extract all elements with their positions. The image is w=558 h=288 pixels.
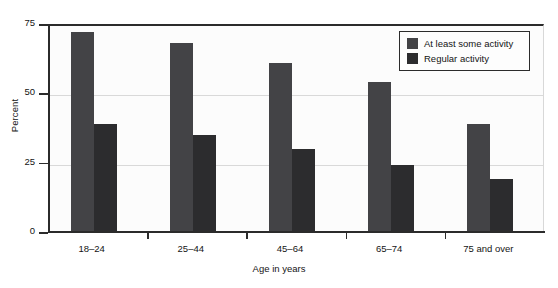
legend-item[interactable]: Regular activity [407, 53, 522, 64]
x-axis-tick [445, 233, 447, 239]
bar [467, 124, 490, 232]
x-axis-title: Age in years [0, 263, 558, 274]
bar [292, 149, 315, 232]
x-axis-category-label: 75 and over [463, 243, 513, 254]
y-axis-tick: 50 [0, 93, 48, 94]
chart-legend: At least some activity Regular activity [399, 31, 530, 71]
x-axis-category-label: 45–64 [277, 243, 303, 254]
y-tick-label: 0 [30, 225, 35, 236]
legend-item[interactable]: At least some activity [407, 38, 522, 49]
x-axis-category-label: 18–24 [78, 243, 104, 254]
bar [94, 124, 117, 232]
gridline [50, 95, 543, 96]
legend-item-label: At least some activity [424, 38, 513, 49]
bar [391, 165, 414, 232]
legend-item-label: Regular activity [424, 53, 489, 64]
x-axis-category-label: 25–44 [178, 243, 204, 254]
x-axis-category-label: 65–74 [376, 243, 402, 254]
x-axis-tick [346, 233, 348, 239]
y-axis-tick: 25 [0, 163, 48, 164]
y-tick-mark [39, 93, 48, 95]
y-tick-mark [39, 232, 48, 234]
bar [170, 43, 193, 232]
y-axis-tick: 0 [0, 232, 48, 233]
bar [71, 32, 94, 232]
y-tick-label: 25 [24, 156, 35, 167]
bar [490, 179, 513, 232]
legend-swatch-icon [407, 38, 418, 49]
x-axis-line [48, 231, 545, 233]
chart-figure: Percent 0255075 18–2425–4445–6465–7475 a… [0, 0, 558, 288]
legend-swatch-icon [407, 53, 418, 64]
x-axis-tick [246, 233, 248, 239]
x-axis-tick [147, 233, 149, 239]
y-tick-label: 75 [24, 17, 35, 28]
bar [193, 135, 216, 232]
bar [368, 82, 391, 232]
bar [269, 63, 292, 232]
y-axis-tick: 75 [0, 24, 48, 25]
y-tick-label: 50 [24, 86, 35, 97]
y-axis-title: Percent [9, 86, 20, 146]
y-tick-mark [39, 163, 48, 165]
y-tick-mark [39, 24, 48, 26]
